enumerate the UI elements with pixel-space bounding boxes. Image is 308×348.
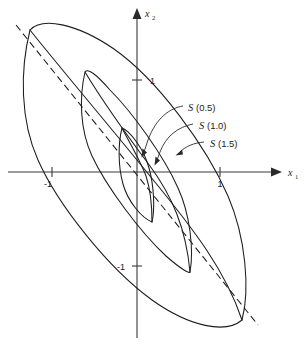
leader-s-1-0 bbox=[157, 124, 193, 160]
leader-s-1-0-arrowhead bbox=[155, 157, 161, 166]
y-tick-label-pos1: 1 bbox=[150, 76, 155, 86]
leader-s-1-5 bbox=[180, 142, 204, 152]
x-tick-label-pos1: 1 bbox=[217, 179, 222, 189]
leader-s-1-5-arrowhead bbox=[176, 150, 184, 156]
label-s-1-0-symbol: S bbox=[199, 120, 205, 131]
figure-container: -1 1 1 -1 x 2 x 1 S (0.5) S (1.0) S (1.5… bbox=[0, 0, 308, 348]
x-tick-label-neg1: -1 bbox=[44, 179, 52, 189]
leader-lines-group bbox=[142, 106, 205, 166]
y-tick-label-neg1: -1 bbox=[117, 262, 125, 272]
label-s-1-5-argument: (1.5) bbox=[218, 138, 238, 149]
x-axis-label: x bbox=[287, 167, 293, 178]
plot-canvas: -1 1 1 -1 x 2 x 1 S (0.5) S (1.0) S (1.5… bbox=[0, 0, 308, 348]
y-axis-arrowhead bbox=[133, 8, 142, 19]
y-axis-label: x bbox=[144, 8, 150, 19]
axis-labels-group: x 2 x 1 bbox=[144, 8, 298, 180]
label-s-0-5-symbol: S bbox=[188, 102, 194, 113]
label-s-1-0-argument: (1.0) bbox=[207, 120, 227, 131]
curve-s-1-5 bbox=[23, 23, 246, 327]
label-s-1-5-symbol: S bbox=[210, 138, 216, 149]
x-axis-arrowhead bbox=[271, 168, 282, 177]
curve-s-1-5-inner-branch bbox=[30, 30, 242, 320]
y-axis-label-subscript: 2 bbox=[152, 14, 155, 21]
curve-labels-group: S (0.5) S (1.0) S (1.5) bbox=[188, 102, 238, 149]
x-axis-label-subscript: 1 bbox=[295, 173, 298, 180]
label-s-0-5-argument: (0.5) bbox=[196, 102, 216, 113]
